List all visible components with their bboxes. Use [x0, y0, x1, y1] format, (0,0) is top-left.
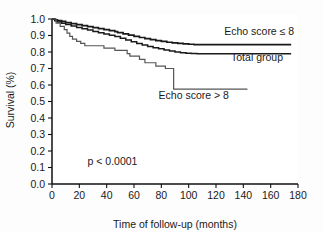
y-tick-label: 0.1	[30, 161, 45, 173]
x-tick-label: 100	[180, 189, 198, 201]
y-tick-label: 1.0	[30, 13, 45, 25]
x-tick-label: 80	[155, 189, 167, 201]
x-tick-label: 20	[73, 189, 85, 201]
y-tick-label: 0.4	[30, 112, 45, 124]
x-axis-title: Time of follow-up (months)	[113, 218, 237, 230]
y-tick-label: 0.6	[30, 79, 45, 91]
y-axis-ticks: 0.00.10.20.30.40.50.60.70.80.91.0	[30, 13, 52, 190]
x-tick-label: 40	[101, 189, 113, 201]
y-tick-label: 0.2	[30, 145, 45, 157]
y-tick-label: 0.3	[30, 128, 45, 140]
x-axis-ticks: 020406080100120140160180	[49, 184, 307, 201]
x-tick-label: 140	[235, 189, 253, 201]
x-tick-label: 160	[262, 189, 280, 201]
survival-chart: 0.00.10.20.30.40.50.60.70.80.91.0 020406…	[0, 0, 323, 232]
series-label-echo-score-8: Echo score ≤ 8	[224, 25, 294, 37]
figure-panel: 0.00.10.20.30.40.50.60.70.80.91.0 020406…	[0, 0, 323, 232]
x-tick-label: 60	[128, 189, 140, 201]
x-tick-label: 180	[289, 189, 307, 201]
y-axis-title: Survival (%)	[4, 72, 16, 129]
x-tick-label: 120	[207, 189, 225, 201]
y-tick-label: 0.0	[30, 178, 45, 190]
series-label-echo-score-8: Echo score > 8	[159, 89, 229, 101]
y-tick-label: 0.7	[30, 62, 45, 74]
y-tick-label: 0.9	[30, 29, 45, 41]
annotation-p-value: p < 0.0001	[88, 155, 138, 167]
y-tick-label: 0.5	[30, 95, 45, 107]
y-tick-label: 0.8	[30, 46, 45, 58]
chart-annotations: p < 0.0001	[88, 155, 138, 167]
x-tick-label: 0	[49, 189, 55, 201]
series-label-total-group: Total group	[231, 51, 283, 63]
